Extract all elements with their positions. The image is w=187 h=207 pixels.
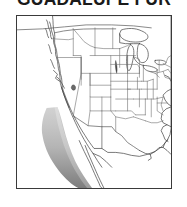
pacific-northwest-coast [46,20,70,108]
gulf-coast [139,140,171,161]
great-salt-lake [71,85,75,90]
north-america-map [17,16,171,188]
range-map-figure: GUADALUPE FUR [0,0,187,207]
range-shading-region [42,107,93,188]
page-title: GUADALUPE FUR [17,0,171,8]
state-boundaries-west [52,28,116,132]
east-coast [161,75,171,141]
map-frame [16,15,172,189]
figure-title-clip: GUADALUPE FUR [0,0,187,10]
interior-lakes [115,60,117,73]
